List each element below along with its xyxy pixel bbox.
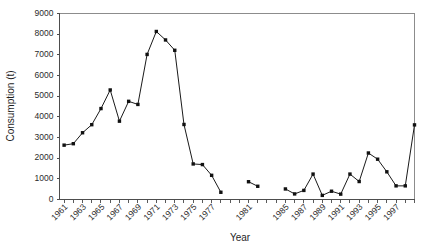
x-tick-label: 1971 — [141, 202, 162, 223]
x-tick-label: 1969 — [123, 202, 144, 223]
data-point-marker — [367, 151, 370, 154]
data-point-marker — [201, 163, 204, 166]
data-point-marker — [394, 184, 397, 187]
data-point-marker — [109, 88, 112, 91]
data-point-marker — [81, 131, 84, 134]
data-point-marker — [247, 180, 250, 183]
chart-figure: 0100020003000400050006000700080009000 19… — [0, 0, 431, 248]
x-tick-label: 1993 — [344, 202, 365, 223]
data-point-marker — [72, 142, 75, 145]
x-tick-label: 1967 — [104, 202, 125, 223]
x-tick-label: 1991 — [326, 202, 347, 223]
series-segment-line — [64, 31, 221, 192]
data-point-marker — [321, 194, 324, 197]
consumption-line-chart: 0100020003000400050006000700080009000 19… — [0, 0, 431, 248]
x-tick-label: 1997 — [381, 202, 402, 223]
data-point-marker — [118, 119, 121, 122]
x-tick-label: 1961 — [49, 202, 70, 223]
y-tick-label: 4000 — [35, 111, 54, 121]
x-tick-label: 1981 — [233, 202, 254, 223]
plot-frame — [60, 14, 415, 200]
y-axis: 0100020003000400050006000700080009000 — [35, 8, 60, 204]
data-point-marker — [90, 123, 93, 126]
x-tick-label: 1965 — [86, 202, 107, 223]
y-tick-label: 6000 — [35, 70, 54, 80]
data-point-marker — [413, 123, 416, 126]
data-point-marker — [136, 103, 139, 106]
data-series-consumption — [62, 30, 416, 197]
data-point-marker — [127, 100, 130, 103]
data-point-marker — [385, 170, 388, 173]
x-tick-label: 1989 — [307, 202, 328, 223]
x-tick-label: 1977 — [197, 202, 218, 223]
data-point-marker — [256, 185, 259, 188]
data-point-marker — [210, 174, 213, 177]
data-point-marker — [99, 107, 102, 110]
caption-strip — [0, 238, 431, 248]
y-tick-label: 8000 — [35, 28, 54, 38]
x-tick-label: 1963 — [68, 202, 89, 223]
y-tick-label: 1000 — [35, 173, 54, 183]
x-tick-label: 1973 — [160, 202, 181, 223]
data-point-marker — [284, 187, 287, 190]
x-tick-label: 1987 — [289, 202, 310, 223]
x-tick-label: 1975 — [178, 202, 199, 223]
y-tick-label: 5000 — [35, 90, 54, 100]
data-point-marker — [62, 143, 65, 146]
data-point-marker — [182, 123, 185, 126]
data-point-marker — [173, 49, 176, 52]
data-point-marker — [164, 38, 167, 41]
data-point-marker — [311, 172, 314, 175]
data-point-marker — [145, 53, 148, 56]
y-tick-label: 9000 — [35, 8, 54, 18]
data-point-marker — [348, 172, 351, 175]
data-point-marker — [339, 192, 342, 195]
data-point-marker — [155, 30, 158, 33]
y-tick-label: 3000 — [35, 132, 54, 142]
data-point-marker — [376, 158, 379, 161]
data-point-marker — [357, 180, 360, 183]
x-axis: 1961196319651967196919711973197519771981… — [49, 200, 414, 223]
y-tick-label: 0 — [49, 194, 54, 204]
y-tick-label: 7000 — [35, 49, 54, 59]
data-point-marker — [330, 190, 333, 193]
y-axis-title: Consumption (t) — [5, 70, 16, 141]
data-point-marker — [192, 162, 195, 165]
x-tick-label: 1985 — [270, 202, 291, 223]
y-tick-label: 2000 — [35, 152, 54, 162]
data-point-marker — [302, 189, 305, 192]
data-point-marker — [219, 191, 222, 194]
data-point-marker — [404, 184, 407, 187]
data-point-marker — [293, 192, 296, 195]
x-tick-label: 1995 — [363, 202, 384, 223]
